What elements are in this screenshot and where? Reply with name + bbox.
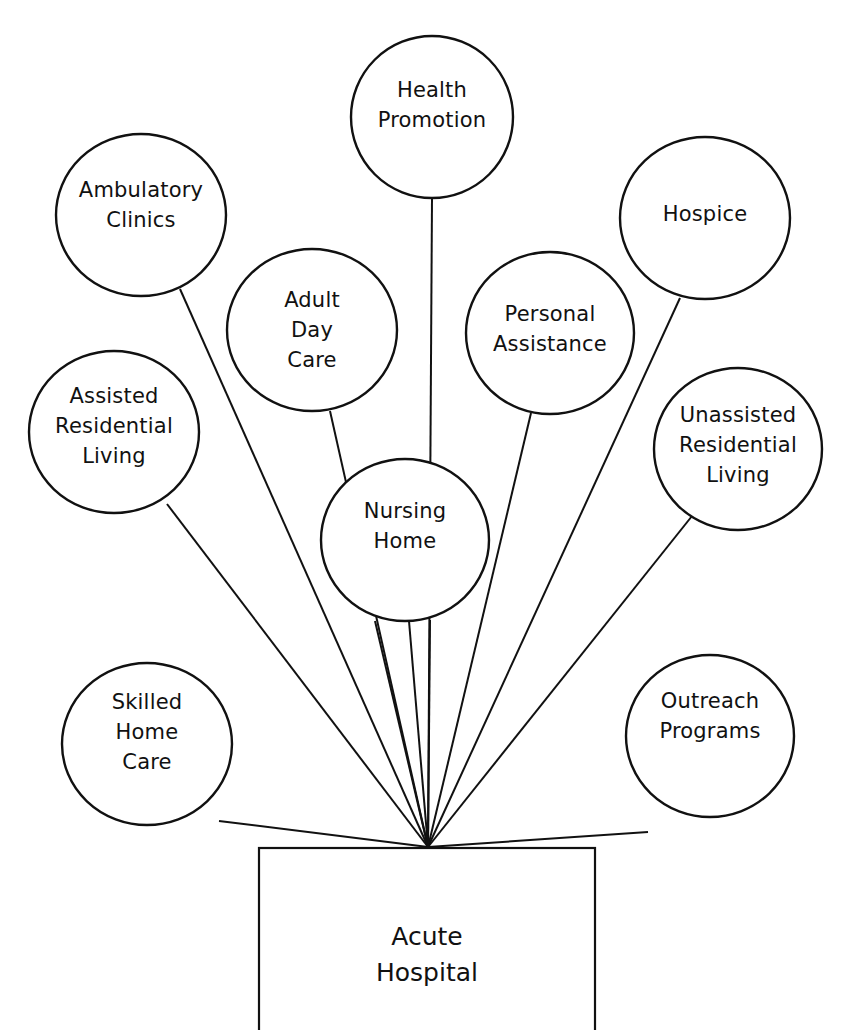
assisted-residential-living-node[interactable] <box>29 351 199 513</box>
hospice-node[interactable] <box>620 137 790 299</box>
adult-day-care-node[interactable] <box>227 249 397 411</box>
skilled-home-care-connector <box>219 821 428 847</box>
health-promotion-node[interactable] <box>351 36 513 198</box>
ambulatory-clinics-node[interactable] <box>56 134 226 296</box>
outreach-programs-connector <box>428 832 648 847</box>
nursing-home-node[interactable] <box>321 459 489 621</box>
service-nodes <box>29 36 822 825</box>
personal-assistance-node[interactable] <box>466 252 634 414</box>
unassisted-residential-living-node[interactable] <box>654 368 822 530</box>
outreach-programs-node[interactable] <box>626 655 794 817</box>
acute-hospital-label: Acute Hospital <box>259 848 595 1030</box>
skilled-home-care-node[interactable] <box>62 663 232 825</box>
